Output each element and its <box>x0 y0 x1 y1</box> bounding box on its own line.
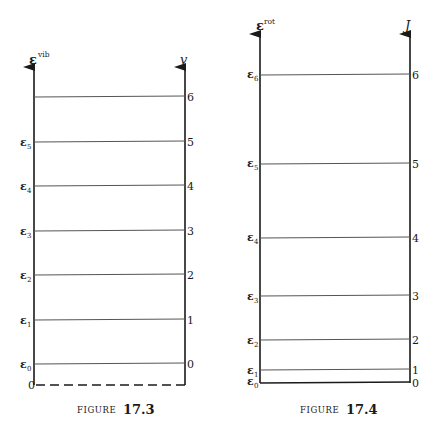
fig17-3-energy-label-0: ε 0 <box>20 358 31 373</box>
svg-text:FIGURE: FIGURE <box>77 405 116 415</box>
fig17-4-J-label-4: 4 <box>412 232 419 245</box>
figure-17-3-vibrational-levels: ε vib v 0 6 5 4 3 2 1 0 ε 5 ε 4 ε 3 <box>20 50 194 417</box>
fig17-3-energy-label-3: ε 3 <box>20 225 31 240</box>
svg-text:2: 2 <box>254 341 258 349</box>
fig17-4-J-label-6: 6 <box>412 69 419 82</box>
fig17-3-level-4 <box>34 185 185 186</box>
fig17-3-right-axis-label: v <box>180 52 188 67</box>
fig17-3-v-label-3: 3 <box>187 225 194 238</box>
svg-text:ε: ε <box>247 375 254 388</box>
fig17-3-energy-label-2: ε 2 <box>20 269 31 284</box>
fig17-4-level-0 <box>260 382 410 383</box>
fig17-3-origin-label: 0 <box>28 379 35 392</box>
svg-text:17.4: 17.4 <box>346 402 378 417</box>
fig17-3-v-label-0: 0 <box>187 358 194 371</box>
svg-text:ε: ε <box>247 231 254 244</box>
svg-text:4: 4 <box>254 238 259 246</box>
svg-text:ε: ε <box>247 68 254 81</box>
fig17-3-energy-label-5: ε 5 <box>20 136 31 151</box>
svg-text:0: 0 <box>254 382 258 390</box>
fig17-3-level-5 <box>34 141 185 142</box>
svg-text:0: 0 <box>27 365 31 373</box>
fig17-3-level-1 <box>34 319 185 320</box>
fig17-4-J-label-0: 0 <box>412 377 419 390</box>
fig17-3-energy-label-4: ε 4 <box>20 180 32 195</box>
fig17-3-left-axis-label: ε <box>29 52 37 67</box>
fig17-4-right-axis-label: J <box>402 18 411 33</box>
svg-text:5: 5 <box>27 143 31 151</box>
fig17-3-level-0 <box>34 363 185 364</box>
svg-text:ε: ε <box>20 269 27 282</box>
fig17-3-v-label-1: 1 <box>187 314 194 327</box>
svg-text:4: 4 <box>27 187 32 195</box>
fig17-3-caption: FIGURE 17.3 <box>77 402 155 417</box>
fig17-3-v-label-6: 6 <box>187 91 194 104</box>
svg-text:ε: ε <box>20 314 27 327</box>
fig17-4-J-label-2: 2 <box>412 334 419 347</box>
fig17-3-v-label-5: 5 <box>187 136 194 149</box>
figure-17-4-rotational-levels: ε rot J 6 5 4 3 2 1 0 ε 6 ε 5 ε 4 <box>247 17 419 417</box>
svg-text:ε: ε <box>247 334 254 347</box>
fig17-4-level-3 <box>260 295 410 296</box>
fig17-4-energy-label-4: ε 4 <box>247 231 259 246</box>
fig17-4-left-axis-label: ε <box>256 18 264 33</box>
svg-text:5: 5 <box>254 164 258 172</box>
svg-text:1: 1 <box>254 371 258 379</box>
svg-text:ε: ε <box>20 180 27 193</box>
svg-text:1: 1 <box>27 321 31 329</box>
svg-text:ε: ε <box>247 290 254 303</box>
fig17-4-level-4 <box>260 237 410 238</box>
svg-text:FIGURE: FIGURE <box>300 405 339 415</box>
fig17-4-left-axis-superscript: rot <box>264 17 275 26</box>
svg-text:ε: ε <box>20 225 27 238</box>
fig17-4-energy-label-5: ε 5 <box>247 157 258 172</box>
fig17-4-J-label-5: 5 <box>412 158 419 171</box>
svg-text:2: 2 <box>27 276 31 284</box>
fig17-4-energy-label-6: ε 6 <box>247 68 259 83</box>
fig17-4-caption: FIGURE 17.4 <box>300 402 378 417</box>
fig17-4-level-1 <box>260 369 410 370</box>
svg-text:ε: ε <box>20 136 27 149</box>
fig17-4-level-6 <box>260 74 410 75</box>
fig17-3-level-2 <box>34 274 185 275</box>
fig17-4-level-2 <box>260 339 410 340</box>
fig17-3-v-label-2: 2 <box>187 269 194 282</box>
fig17-3-left-axis-superscript: vib <box>37 50 50 59</box>
svg-text:3: 3 <box>27 232 31 240</box>
svg-text:ε: ε <box>247 157 254 170</box>
fig17-4-level-5 <box>260 163 410 164</box>
svg-text:ε: ε <box>20 358 27 371</box>
svg-text:17.3: 17.3 <box>123 402 155 417</box>
svg-text:6: 6 <box>254 75 259 83</box>
fig17-3-level-6 <box>34 96 185 97</box>
fig17-3-energy-label-1: ε 1 <box>20 314 31 329</box>
fig17-3-level-3 <box>34 230 185 231</box>
fig17-4-energy-label-3: ε 3 <box>247 290 258 305</box>
fig17-3-v-label-4: 4 <box>187 180 194 193</box>
svg-text:3: 3 <box>254 297 258 305</box>
fig17-4-J-label-1: 1 <box>412 364 419 377</box>
fig17-4-J-label-3: 3 <box>412 290 419 303</box>
fig17-4-energy-label-2: ε 2 <box>247 334 258 349</box>
